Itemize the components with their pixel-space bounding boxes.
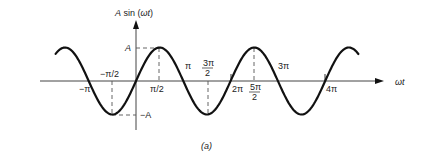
tick-label-neg-half-pi: −π/2: [100, 69, 119, 79]
neg-amplitude-label: −A: [140, 110, 151, 120]
amplitude-label: A: [124, 43, 131, 53]
y-axis-arrow-icon: [133, 20, 139, 29]
svg-text:2: 2: [252, 92, 257, 102]
x-axis-label: ωt: [395, 77, 405, 87]
figure-caption: (a): [201, 141, 212, 151]
svg-text:5π: 5π: [250, 82, 261, 92]
tick-label-half-pi: π/2: [150, 84, 164, 94]
tick-label-three-half-pi: 3π 2: [202, 58, 214, 78]
tick-label-five-half-pi: 5π 2: [249, 82, 261, 102]
tick-label-three-pi: 3π: [278, 61, 289, 71]
tick-label-neg-pi: −π: [79, 84, 90, 94]
tick-label-pi: π: [185, 61, 191, 71]
svg-text:3π: 3π: [203, 58, 214, 68]
x-axis-arrow-icon: [375, 78, 384, 84]
tick-label-two-pi: 2π: [232, 84, 243, 94]
sine-wave-diagram: A sin (ωt) ωt A −A −π −π/2 π/2 π 3π 2 2π…: [0, 0, 427, 161]
tick-label-four-pi: 4π: [326, 84, 337, 94]
svg-text:2: 2: [205, 68, 210, 78]
y-axis-label: A sin (ωt): [114, 8, 153, 18]
